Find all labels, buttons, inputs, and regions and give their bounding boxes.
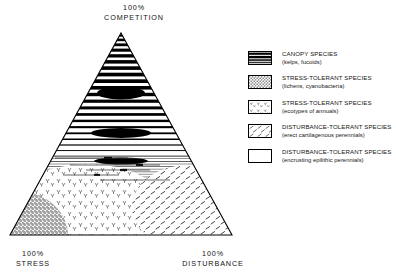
legend-title: DISTURBANCE-TOLERANT SPECIES — [282, 148, 396, 156]
legend-title: STRESS-TOLERANT SPECIES — [282, 99, 396, 107]
competition-percent: 100% — [84, 3, 184, 13]
axis-label-disturbance: 100% DISTURBANCE — [163, 249, 263, 268]
legend-title: STRESS-TOLERANT SPECIES — [282, 74, 396, 82]
axis-label-stress: 100% STRESS — [2, 249, 64, 268]
legend-text: STRESS-TOLERANT SPECIES (lichens, cyanob… — [282, 74, 396, 90]
legend-subtitle: (encrusting epilithic perennials) — [282, 156, 396, 164]
legend-title: CANOPY SPECIES — [282, 50, 396, 58]
blank-white-swatch — [248, 149, 272, 163]
axis-label-competition: 100% COMPETITION — [84, 3, 184, 22]
legend-item: STRESS-TOLERANT SPECIES (ecotypes of ann… — [248, 99, 396, 123]
legend-text: DISTURBANCE-TOLERANT SPECIES (erect cart… — [282, 123, 396, 139]
legend-item: DISTURBANCE-TOLERANT SPECIES (erect cart… — [248, 123, 396, 147]
legend-item: DISTURBANCE-TOLERANT SPECIES (encrusting… — [248, 148, 396, 172]
legend-subtitle: (ecotypes of annuals) — [282, 107, 396, 115]
legend-subtitle: (erect cartilagenous perennials) — [282, 131, 396, 139]
stress-name: STRESS — [2, 259, 64, 269]
sparse-y-marks-swatch — [248, 100, 272, 114]
disturbance-percent: 100% — [163, 249, 263, 259]
legend-text: STRESS-TOLERANT SPECIES (ecotypes of ann… — [282, 99, 396, 115]
legend-subtitle: (kelps, fucoids) — [282, 58, 396, 66]
legend-text: CANOPY SPECIES (kelps, fucoids) — [282, 50, 396, 66]
legend: CANOPY SPECIES (kelps, fucoids) STRESS-T… — [248, 50, 396, 172]
competition-name: COMPETITION — [84, 13, 184, 23]
dense-stipple-swatch — [248, 75, 272, 89]
stress-percent: 100% — [2, 249, 64, 259]
legend-item: CANOPY SPECIES (kelps, fucoids) — [248, 50, 396, 74]
disturbance-name: DISTURBANCE — [163, 259, 263, 269]
diagonal-dashes-swatch — [248, 124, 272, 138]
legend-title: DISTURBANCE-TOLERANT SPECIES — [282, 123, 396, 131]
legend-text: DISTURBANCE-TOLERANT SPECIES (encrusting… — [282, 148, 396, 164]
thick-black-bands-swatch — [248, 51, 272, 65]
legend-item: STRESS-TOLERANT SPECIES (lichens, cyanob… — [248, 74, 396, 98]
legend-subtitle: (lichens, cyanobacteria) — [282, 82, 396, 90]
